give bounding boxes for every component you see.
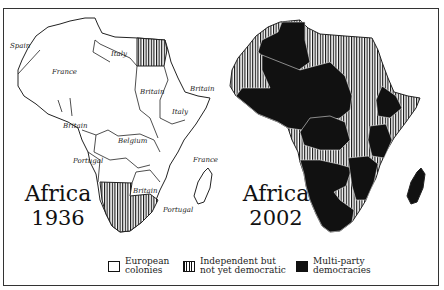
madagascar-2002 <box>407 168 425 204</box>
legend-item-independent: Independent but not yet democratic <box>183 257 286 275</box>
year-2002: 2002 <box>238 208 314 229</box>
year-1936: 1936 <box>20 208 96 229</box>
label-portugal-mozambique: Portugal <box>162 206 193 214</box>
legend-label: Multi-party democracies <box>313 257 371 275</box>
label-italy-libya: Italy <box>110 50 128 58</box>
legend-line: not yet democratic <box>200 266 286 275</box>
label-belgium: Belgium <box>117 137 148 145</box>
title-africa-2002: Africa <box>238 183 314 205</box>
label-france-madagascar: France <box>192 156 218 164</box>
label-france: France <box>51 68 77 76</box>
title-africa-1936: Africa <box>20 183 96 205</box>
legend-label: Independent but not yet democratic <box>200 257 286 275</box>
legend-label: European colonies <box>125 257 169 275</box>
black-swatch-icon <box>296 261 308 272</box>
legend-item-european-colonies: European colonies <box>108 257 169 275</box>
label-britain-south: Britain <box>132 187 158 195</box>
label-britain-somaliland: Britain <box>189 85 215 93</box>
madagascar-1936 <box>194 168 212 204</box>
label-britain-nigeria: Britain <box>62 122 88 130</box>
map-2002-title: Africa 2002 <box>238 183 314 229</box>
label-italy-ethiopia: Italy <box>171 108 189 116</box>
map-1936-title: Africa 1936 <box>20 183 96 229</box>
label-spain: Spain <box>10 42 31 50</box>
label-portugal-angola: Portugal <box>72 157 103 165</box>
hatch-swatch-icon <box>183 261 195 272</box>
label-britain-sudan: Britain <box>139 88 165 96</box>
legend-item-democracies: Multi-party democracies <box>296 257 371 275</box>
legend-line: colonies <box>125 266 169 275</box>
maps-canvas: Spain France Italy Britain Britain Italy… <box>0 0 444 290</box>
egypt-independent <box>137 38 167 66</box>
white-swatch-icon <box>108 261 120 272</box>
legend-line: democracies <box>313 266 371 275</box>
